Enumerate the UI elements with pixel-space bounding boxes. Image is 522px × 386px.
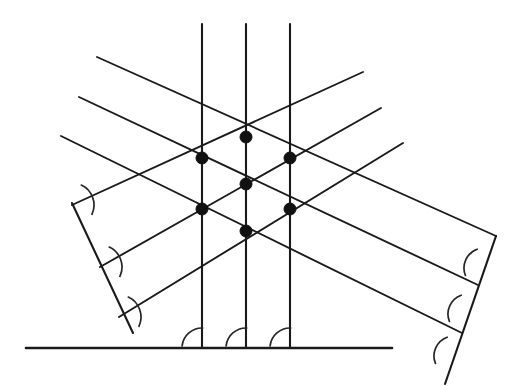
node-bottom-center — [240, 225, 252, 237]
node-upper-left — [196, 152, 208, 164]
node-middle-center — [240, 178, 252, 190]
node-top-center — [240, 131, 252, 143]
node-lower-left — [196, 203, 208, 215]
figure-background — [0, 0, 522, 386]
node-lower-right — [284, 203, 296, 215]
node-upper-right — [284, 152, 296, 164]
geometry-diagram-svg — [0, 0, 522, 386]
geometry-figure-canvas — [0, 0, 522, 386]
